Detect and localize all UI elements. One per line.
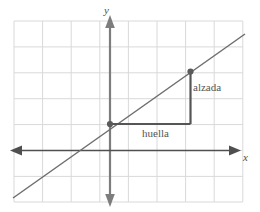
y-axis-label: y — [104, 5, 109, 16]
graph-svg — [0, 0, 260, 212]
coordinate-plane-figure: y x alzada huella — [0, 0, 260, 212]
huella-label: huella — [142, 128, 169, 139]
x-axis-label: x — [243, 152, 248, 163]
point-lower — [107, 121, 113, 127]
point-upper — [187, 68, 193, 74]
alzada-label: alzada — [193, 82, 221, 93]
